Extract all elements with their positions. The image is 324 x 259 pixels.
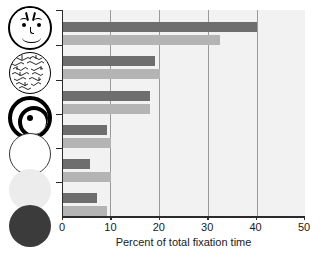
bar-white-disc-light bbox=[63, 138, 111, 148]
x-ticklabel-20: 20 bbox=[144, 221, 174, 233]
bar-dark-disc-light bbox=[63, 206, 107, 216]
bar-white-disc-dark bbox=[63, 125, 107, 135]
chart-figure: 0 10 20 30 40 50 Percent of total fixati… bbox=[0, 0, 324, 259]
bar-light-gray-disc-light bbox=[63, 172, 111, 182]
face-icon bbox=[8, 6, 52, 50]
x-tick-10 bbox=[110, 216, 111, 220]
x-ticklabel-50: 50 bbox=[289, 221, 319, 233]
dark-circle-icon bbox=[9, 205, 51, 247]
bar-scrambled-face-light bbox=[63, 69, 160, 79]
scrambled-face-icon bbox=[9, 52, 51, 94]
x-tick-20 bbox=[159, 216, 160, 220]
bar-scrambled-face-dark bbox=[63, 56, 155, 66]
x-tick-50 bbox=[304, 216, 305, 220]
stimulus-icon-column bbox=[0, 0, 62, 216]
gridline-40 bbox=[257, 10, 258, 216]
bar-dark-disc-dark bbox=[63, 193, 97, 203]
bar-face-light bbox=[63, 35, 220, 45]
bar-face-dark bbox=[63, 22, 257, 32]
x-tick-40 bbox=[256, 216, 257, 220]
bar-bullseye-light bbox=[63, 104, 150, 114]
x-ticklabel-30: 30 bbox=[192, 221, 222, 233]
bar-light-gray-disc-dark bbox=[63, 159, 90, 169]
bar-bullseye-dark bbox=[63, 91, 150, 101]
x-ticklabel-10: 10 bbox=[95, 221, 125, 233]
x-axis-line bbox=[62, 216, 305, 218]
x-axis-label: Percent of total fixation time bbox=[62, 236, 305, 248]
plot-area bbox=[62, 10, 305, 216]
x-tick-0 bbox=[62, 216, 63, 220]
x-ticklabel-0: 0 bbox=[47, 221, 77, 233]
x-ticklabel-40: 40 bbox=[241, 221, 271, 233]
x-tick-30 bbox=[207, 216, 208, 220]
